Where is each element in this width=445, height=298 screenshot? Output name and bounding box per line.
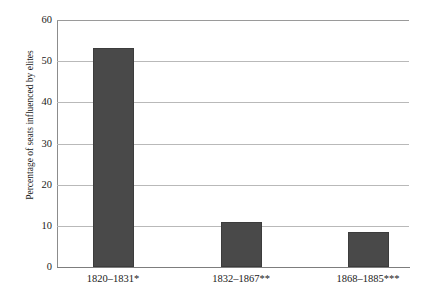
gridline-60 — [57, 20, 409, 21]
y-tick-label-60: 60 — [26, 15, 52, 26]
x-tick-label-1: 1820–1831* — [87, 273, 140, 284]
y-tick-label-40: 40 — [26, 97, 52, 108]
y-tick-label-10: 10 — [26, 221, 52, 232]
bar-chart: Percentage of seats influenced by elites… — [0, 0, 445, 298]
plot-area — [57, 20, 409, 267]
y-tick-label-20: 20 — [26, 180, 52, 191]
y-tick-label-30: 30 — [26, 139, 52, 150]
bar-1820-1831 — [93, 48, 134, 267]
bar-1868-1885 — [348, 232, 389, 267]
y-tick-label-50: 50 — [26, 56, 52, 67]
y-tick-label-0: 0 — [26, 262, 52, 273]
x-tick-label-3: 1868–1885*** — [337, 273, 400, 284]
x-axis-line — [57, 267, 410, 268]
y-axis-tick-labels: 60 50 40 30 20 10 0 — [22, 20, 52, 267]
bar-1832-1867 — [221, 222, 262, 267]
x-tick-label-2: 1832–1867** — [212, 273, 270, 284]
